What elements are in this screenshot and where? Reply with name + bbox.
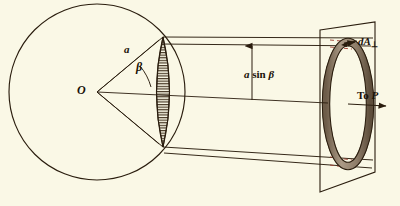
cone-ray-lower-inner <box>97 92 159 144</box>
label-to-p: To P <box>357 90 378 101</box>
label-a-sin-beta-angle: β <box>268 68 274 80</box>
label-area-element-perp: ⊥ <box>371 40 378 49</box>
spherical-zone-band <box>157 37 170 147</box>
label-a-sin-beta-fn: sin <box>252 68 265 80</box>
label-angle-beta: β <box>136 61 142 73</box>
diagram-canvas <box>0 0 400 206</box>
label-area-element-main: dA <box>358 35 371 47</box>
label-area-element: dA⊥ <box>358 36 378 49</box>
label-a-sin-beta-a: a <box>244 68 250 80</box>
label-radius-a: a <box>124 44 130 55</box>
label-to-p-prefix: To <box>357 89 369 101</box>
physics-diagram-solid-angle: O a β a sin β dA⊥ To P <box>0 0 400 206</box>
label-origin-O: O <box>77 84 86 96</box>
label-to-p-point: P <box>372 89 379 101</box>
axis-line-left <box>97 92 328 103</box>
beam-upper-outer <box>163 37 373 38</box>
label-a-sin-beta: a sin β <box>244 69 274 80</box>
